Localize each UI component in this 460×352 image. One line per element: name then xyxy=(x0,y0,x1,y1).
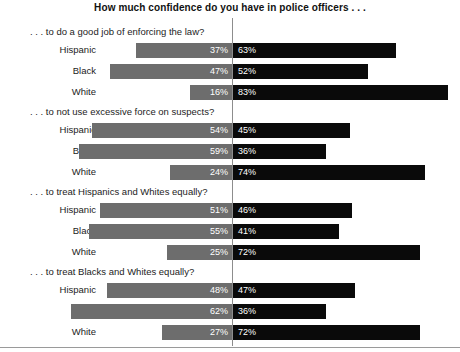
section-title: . . . to treat Hispanics and Whites equa… xyxy=(30,186,207,197)
bar-segment-no-confidence: 41% xyxy=(233,224,339,239)
bar-value-right: 72% xyxy=(238,247,256,257)
bar-segment-no-confidence: 47% xyxy=(233,283,355,298)
chart-row: White16%83% xyxy=(0,85,460,100)
bar-value-left: 16% xyxy=(210,87,228,97)
row-label-white: White xyxy=(0,326,96,337)
bar-value-right: 46% xyxy=(238,205,256,215)
bar-segment-confidence: 51% xyxy=(100,203,232,218)
bar-segment-confidence: 55% xyxy=(89,224,232,239)
bar-segment-confidence: 54% xyxy=(92,123,232,138)
row-label-hispanic: Hispanic xyxy=(0,44,96,55)
bar-value-left: 54% xyxy=(210,125,228,135)
bar-value-right: 45% xyxy=(238,125,256,135)
bar-value-left: 27% xyxy=(210,327,228,337)
bar-segment-confidence: 16% xyxy=(190,85,232,100)
bar-segment-no-confidence: 63% xyxy=(233,43,396,58)
section-title: . . . to do a good job of enforcing the … xyxy=(30,26,204,37)
bar-value-right: 83% xyxy=(238,87,256,97)
bar-segment-no-confidence: 36% xyxy=(233,144,326,159)
chart-row: White25%72% xyxy=(0,245,460,260)
bar-value-right: 36% xyxy=(238,306,256,316)
bar-value-left: 25% xyxy=(210,247,228,257)
bar-value-left: 37% xyxy=(210,45,228,55)
bar-segment-confidence: 27% xyxy=(162,325,232,340)
chart-row: Black47%52% xyxy=(0,64,460,79)
bar-segment-confidence: 47% xyxy=(110,64,232,79)
chart-title: How much confidence do you have in polic… xyxy=(0,2,460,13)
bar-segment-no-confidence: 52% xyxy=(233,64,368,79)
bar-segment-no-confidence: 45% xyxy=(233,123,350,138)
bar-value-right: 36% xyxy=(238,146,256,156)
bar-segment-confidence: 62% xyxy=(71,304,232,319)
row-label-hispanic: Hispanic xyxy=(0,124,96,135)
bar-segment-confidence: 25% xyxy=(167,245,232,260)
bar-value-right: 52% xyxy=(238,66,256,76)
bottom-divider xyxy=(0,347,460,348)
bar-segment-no-confidence: 72% xyxy=(233,325,420,340)
row-label-black: Black xyxy=(0,225,96,236)
row-label-black: Black xyxy=(0,65,96,76)
bar-value-left: 24% xyxy=(210,167,228,177)
bar-value-left: 47% xyxy=(210,66,228,76)
confidence-in-police-chart: How much confidence do you have in polic… xyxy=(0,0,460,352)
row-label-white: White xyxy=(0,86,96,97)
bar-segment-no-confidence: 83% xyxy=(233,85,448,100)
bar-segment-no-confidence: 36% xyxy=(233,304,326,319)
row-label-white: White xyxy=(0,166,96,177)
bar-value-left: 55% xyxy=(210,226,228,236)
row-label-white: White xyxy=(0,246,96,257)
section-title: . . . to not use excessive force on susp… xyxy=(30,106,214,117)
bar-value-left: 59% xyxy=(210,146,228,156)
chart-row: White27%72% xyxy=(0,325,460,340)
bar-value-left: 48% xyxy=(210,285,228,295)
bar-value-right: 74% xyxy=(238,167,256,177)
bar-value-right: 41% xyxy=(238,226,256,236)
bar-value-right: 63% xyxy=(238,45,256,55)
bar-segment-confidence: 59% xyxy=(79,144,232,159)
bar-segment-confidence: 24% xyxy=(170,165,232,180)
chart-row: Hispanic54%45% xyxy=(0,123,460,138)
chart-row: Hispanic37%63% xyxy=(0,43,460,58)
chart-row: Black62%36% xyxy=(0,304,460,319)
bar-segment-no-confidence: 46% xyxy=(233,203,352,218)
chart-row: Black55%41% xyxy=(0,224,460,239)
bar-value-left: 62% xyxy=(210,306,228,316)
row-label-hispanic: Hispanic xyxy=(0,204,96,215)
chart-row: Black59%36% xyxy=(0,144,460,159)
bar-segment-no-confidence: 74% xyxy=(233,165,425,180)
bar-value-right: 47% xyxy=(238,285,256,295)
bar-value-right: 72% xyxy=(238,327,256,337)
bar-segment-confidence: 48% xyxy=(107,283,232,298)
chart-row: Hispanic51%46% xyxy=(0,203,460,218)
row-label-hispanic: Hispanic xyxy=(0,284,96,295)
bar-segment-no-confidence: 72% xyxy=(233,245,420,260)
section-title: . . . to treat Blacks and Whites equally… xyxy=(30,266,194,277)
bar-segment-confidence: 37% xyxy=(136,43,232,58)
chart-row: Hispanic48%47% xyxy=(0,283,460,298)
bar-value-left: 51% xyxy=(210,205,228,215)
chart-row: White24%74% xyxy=(0,165,460,180)
